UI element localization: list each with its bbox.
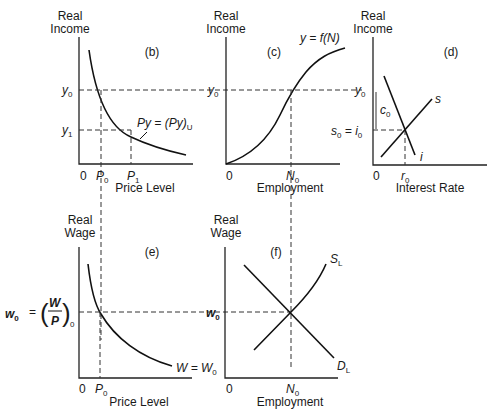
panel-d-i-label: i bbox=[420, 150, 423, 164]
panel-c-y-label-line1: Real bbox=[214, 9, 239, 23]
panel-e: Real Wage (e) w0 = ( W P ) 0 0 P0 Price … bbox=[5, 213, 291, 409]
panel-d-y-label-line1: Real bbox=[361, 9, 386, 23]
panel-d-c0-label: c0 bbox=[380, 103, 391, 119]
panel-b-curve-pointer bbox=[140, 132, 147, 139]
panel-b-origin: 0 bbox=[80, 169, 87, 183]
macro-equilibrium-diagram: Real Income (b) y0 y1 0 P0 P1 Price Leve… bbox=[0, 0, 498, 419]
panel-f: Real Wage (f) w0 SL DL 0 N0 Employment bbox=[206, 213, 351, 409]
panel-f-x-label: Employment bbox=[257, 395, 324, 409]
panel-f-tag: (f) bbox=[270, 245, 281, 259]
panel-d-s0-i0-label: s0 = i0 bbox=[331, 124, 363, 140]
panel-c-tag: (c) bbox=[267, 45, 281, 59]
panel-e-y-label-line1: Real bbox=[68, 213, 93, 227]
panel-c-production-function bbox=[226, 48, 345, 164]
svg-text:P: P bbox=[51, 314, 60, 328]
panel-e-curve-label: W = W0 bbox=[176, 361, 217, 377]
svg-text:0: 0 bbox=[70, 320, 75, 329]
panel-b-p0-label: P0 bbox=[96, 169, 109, 185]
panel-d-tag: (d) bbox=[444, 45, 459, 59]
panel-c-origin: 0 bbox=[226, 169, 233, 183]
panel-f-dl-label: DL bbox=[337, 359, 351, 375]
svg-text:W: W bbox=[49, 296, 62, 310]
panel-b-y1-label: y1 bbox=[61, 123, 73, 139]
panel-d-y-label-line2: Income bbox=[353, 22, 393, 36]
svg-text:w0: w0 bbox=[5, 307, 19, 323]
svg-text:=: = bbox=[29, 305, 36, 319]
panel-f-y-label-line2: Wage bbox=[211, 226, 242, 240]
panel-f-y-label-line1: Real bbox=[214, 213, 239, 227]
panel-b-y-label-line1: Real bbox=[58, 9, 83, 23]
svg-text:(: ( bbox=[40, 298, 49, 328]
panel-c-curve-label: y = f(N) bbox=[299, 31, 340, 45]
panel-e-w0-equation: w0 = ( W P ) 0 bbox=[5, 296, 75, 329]
panel-b: Real Income (b) y0 y1 0 P0 P1 Price Leve… bbox=[50, 9, 362, 340]
panel-b-x-label: Price Level bbox=[115, 181, 174, 195]
panel-d-origin: 0 bbox=[373, 169, 380, 183]
panel-d-saving-line bbox=[381, 99, 432, 157]
panel-e-tag: (e) bbox=[145, 245, 160, 259]
panel-e-x-label: Price Level bbox=[109, 395, 168, 409]
panel-b-curve-label: Py = (Py)U bbox=[137, 116, 193, 132]
panel-b-y-label-line2: Income bbox=[50, 22, 90, 36]
panel-d-y0-label: y0 bbox=[354, 83, 366, 99]
panel-b-y0-label: y0 bbox=[61, 83, 73, 99]
panel-e-origin: 0 bbox=[79, 382, 86, 396]
panel-d: Real Income (d) y0 s0 = i0 c0 s i 0 r0 I… bbox=[331, 9, 487, 195]
panel-c-axes bbox=[226, 37, 340, 164]
panel-c-y0-label: y0 bbox=[207, 83, 219, 99]
panel-f-labor-supply bbox=[254, 264, 326, 350]
panel-f-sl-label: SL bbox=[330, 252, 343, 268]
panel-d-x-label: Interest Rate bbox=[396, 181, 465, 195]
panel-b-rectangular-hyperbola bbox=[89, 50, 186, 155]
panel-b-axes bbox=[79, 37, 193, 164]
panel-c-y-label-line2: Income bbox=[206, 22, 246, 36]
panel-b-tag: (b) bbox=[145, 45, 160, 59]
panel-e-y-label-line2: Wage bbox=[65, 226, 96, 240]
panel-c: Real Income (c) y = f(N) y0 0 N0 Employm… bbox=[206, 9, 345, 370]
panel-f-w0-label: w0 bbox=[206, 306, 220, 322]
panel-c-x-label: Employment bbox=[257, 181, 324, 195]
panel-d-s-label: s bbox=[435, 92, 441, 106]
panel-f-origin: 0 bbox=[226, 382, 233, 396]
panel-e-p0-label: P0 bbox=[95, 382, 108, 398]
